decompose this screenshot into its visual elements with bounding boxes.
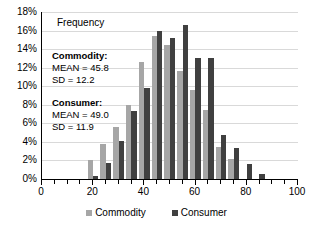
x-tick [143,180,144,185]
x-tick-label: 20 [87,186,98,197]
bar-consumer-70 [221,135,226,179]
bar-consumer-20 [93,176,98,179]
x-tick [195,180,196,185]
bar-consumer-85 [259,174,264,179]
commodity-stats-heading: Commodity: [52,50,107,62]
plot-area [41,12,298,180]
y-tick-label: 10% [17,81,37,91]
bar-consumer-40 [144,88,149,179]
x-tick [284,180,285,184]
x-tick [220,180,221,184]
x-tick [41,180,42,185]
x-axis-ticks [41,180,298,185]
legend-item-consumer[interactable]: Consumer [172,207,227,218]
x-tick-label: 100 [289,186,306,197]
histogram-chart: 18%16%14%12%10%8%6%4%2%0% 020406080100 F… [0,0,313,235]
bar-consumer-75 [234,148,239,179]
y-tick-label: 16% [17,26,37,36]
x-tick [131,180,132,184]
bar-consumer-50 [170,38,175,179]
legend-swatch-icon [172,210,178,216]
bar-consumer-35 [131,111,136,179]
y-tick-label: 2% [23,155,37,165]
legend-label: Commodity [95,207,146,218]
x-tick [54,180,55,184]
commodity-sd-value: SD = 12.2 [52,74,95,86]
x-tick [79,180,80,184]
x-tick [92,180,93,185]
bar-consumer-30 [119,141,124,179]
bars-layer [42,12,298,179]
y-tick-label: 14% [17,44,37,54]
bar-consumer-55 [183,25,188,179]
y-tick-label: 0% [23,174,37,184]
x-tick [105,180,106,184]
x-tick [67,180,68,184]
x-tick [169,180,170,184]
x-tick-label: 0 [38,186,44,197]
x-tick-label: 80 [240,186,251,197]
x-tick [259,180,260,184]
x-tick [156,180,157,184]
x-tick-label: 40 [138,186,149,197]
y-axis: 18%16%14%12%10%8%6%4%2%0% [0,8,40,183]
bar-consumer-80 [247,164,252,179]
consumer-sd-value: SD = 11.9 [52,121,94,133]
legend-label: Consumer [181,207,227,218]
legend-item-commodity[interactable]: Commodity [86,207,146,218]
y-tick-label: 8% [23,100,37,110]
x-tick-label: 60 [189,186,200,197]
x-tick [297,180,298,185]
x-tick [233,180,234,184]
y-tick-label: 12% [17,63,37,73]
bar-consumer-25 [106,163,111,179]
x-tick [207,180,208,184]
y-tick-label: 6% [23,118,37,128]
bar-consumer-45 [157,31,162,179]
y-tick-label: 4% [23,137,37,147]
commodity-mean-value: MEAN = 45.8 [52,62,109,74]
bar-consumer-60 [195,58,200,179]
y-tick-label: 18% [17,7,37,17]
legend-swatch-icon [86,210,92,216]
consumer-stats-heading: Consumer: [52,97,102,109]
x-axis-labels: 020406080100 [41,186,298,200]
frequency-axis-label: Frequency [57,17,104,29]
x-tick [118,180,119,184]
x-tick [246,180,247,185]
x-tick [271,180,272,184]
bar-consumer-65 [208,58,213,179]
x-tick [182,180,183,184]
consumer-mean-value: MEAN = 49.0 [52,109,109,121]
chart-legend: CommodityConsumer [0,207,313,218]
